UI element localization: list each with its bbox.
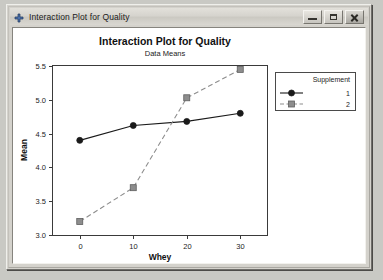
y-tick-label: 4.0 <box>36 163 46 172</box>
title-bar[interactable]: Interaction Plot for Quality <box>10 8 368 25</box>
crosshair-plus-icon <box>13 11 25 23</box>
data-point-2 <box>237 66 243 72</box>
y-tick-label: 5.0 <box>36 96 46 105</box>
plot-window: Interaction Plot for Quality Interaction… <box>6 4 372 270</box>
window-title: Interaction Plot for Quality <box>29 12 303 22</box>
y-tick-label: 3.0 <box>36 231 46 240</box>
desktop-backdrop: Interaction Plot for Quality Interaction… <box>0 0 383 280</box>
data-point-2 <box>184 95 190 101</box>
close-button[interactable] <box>345 10 364 24</box>
x-tick-label: 10 <box>129 242 137 251</box>
x-axis: 0102030 <box>78 235 244 251</box>
y-tick-label: 4.5 <box>36 130 46 139</box>
y-tick-label: 3.5 <box>36 197 46 206</box>
x-axis-title: Whey <box>149 252 172 262</box>
minimize-icon <box>308 18 317 20</box>
chart-legend[interactable]: Supplement12 <box>276 73 356 111</box>
close-icon <box>346 11 363 23</box>
x-tick-label: 30 <box>236 242 244 251</box>
data-point-1 <box>130 122 136 128</box>
legend-marker-1 <box>289 90 295 96</box>
y-tick-label: 5.5 <box>36 62 46 71</box>
chart-subtitle: Data Means <box>145 49 186 58</box>
data-point-2 <box>130 185 136 191</box>
legend-title: Supplement <box>313 76 350 84</box>
data-point-1 <box>184 118 190 124</box>
plot-frame <box>53 66 268 236</box>
maximize-button[interactable] <box>324 10 343 24</box>
graph-client-area[interactable]: Interaction Plot for Quality Data Means … <box>12 27 366 264</box>
data-point-2 <box>77 218 83 224</box>
y-axis: 3.03.54.04.55.05.5 <box>36 62 53 240</box>
x-tick-label: 20 <box>183 242 191 251</box>
data-point-1 <box>77 137 83 143</box>
y-axis-title: Mean <box>19 139 29 161</box>
minimize-button[interactable] <box>303 10 322 24</box>
x-tick-label: 0 <box>78 242 82 251</box>
data-point-1 <box>237 110 243 116</box>
maximize-icon <box>330 14 337 20</box>
chart-title: Interaction Plot for Quality <box>99 35 231 47</box>
legend-label-1[interactable]: 1 <box>346 90 350 97</box>
interaction-plot-svg: Interaction Plot for Quality Data Means … <box>13 28 365 263</box>
legend-marker-2 <box>289 101 295 107</box>
legend-label-2[interactable]: 2 <box>346 101 350 108</box>
